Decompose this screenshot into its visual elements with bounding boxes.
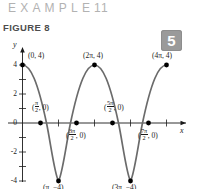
fraction-5pi-2: 5π2 xyxy=(107,100,114,114)
graph-svg xyxy=(0,42,198,189)
y-tick-label-0: 0 xyxy=(8,118,17,127)
y-tick-label-4: 4 xyxy=(8,60,17,69)
example-header-number: 11 xyxy=(94,1,108,15)
cosine-graph: y x 4 2 0 -2 -4 (0, 4) (2π, 4) (4π, 4) (… xyxy=(0,42,198,189)
fraction-7pi-2: 7π2 xyxy=(141,128,148,142)
point-zero-3pi-2 xyxy=(74,121,79,126)
label-max-2pi: (2π, 4) xyxy=(83,51,103,60)
point-zero-pi-2 xyxy=(38,121,43,126)
y-tick-label-2: 2 xyxy=(8,89,17,98)
label-min-3pi: (3π, −4) xyxy=(112,183,136,189)
paren-close: ) xyxy=(155,131,158,140)
paren-close: ) xyxy=(121,103,124,112)
x-axis-arrow xyxy=(181,121,187,126)
point-zero-5pi-2 xyxy=(110,121,115,126)
label-max-0: (0, 4) xyxy=(28,51,44,60)
label-zero-7pi-2: (7π2, 0) xyxy=(138,128,158,142)
paren-close: ) xyxy=(83,131,86,140)
y-axis-arrow xyxy=(20,47,25,53)
y-axis-label: y xyxy=(13,40,17,49)
fraction-denominator: 2 xyxy=(69,135,76,141)
fraction-denominator: 2 xyxy=(141,135,148,141)
x-axis-label: x xyxy=(180,126,184,135)
example-header-text: EXAMPLE xyxy=(8,1,94,15)
label-zero-pi-2: (π2, 0) xyxy=(32,100,49,114)
figure-label: FIGURE 8 xyxy=(3,22,50,33)
point-max-0 xyxy=(20,63,25,68)
point-max-4pi xyxy=(164,63,169,68)
label-zero-5pi-2: (5π2, 0) xyxy=(104,100,124,114)
y-tick-label-minus4: -4 xyxy=(4,176,17,185)
point-max-2pi xyxy=(92,63,97,68)
y-tick-label-minus2: -2 xyxy=(4,147,17,156)
label-zero-3pi-2: (3π2, 0) xyxy=(66,128,86,142)
paren-close: ) xyxy=(46,103,49,112)
example-header: EXAMPLE11 xyxy=(8,1,109,15)
fraction-denominator: 2 xyxy=(107,107,114,113)
fraction-3pi-2: 3π2 xyxy=(69,128,76,142)
point-zero-7pi-2 xyxy=(146,121,151,126)
label-max-4pi: (4π, 4) xyxy=(152,51,172,60)
label-min-pi: (π, −4) xyxy=(43,183,64,189)
